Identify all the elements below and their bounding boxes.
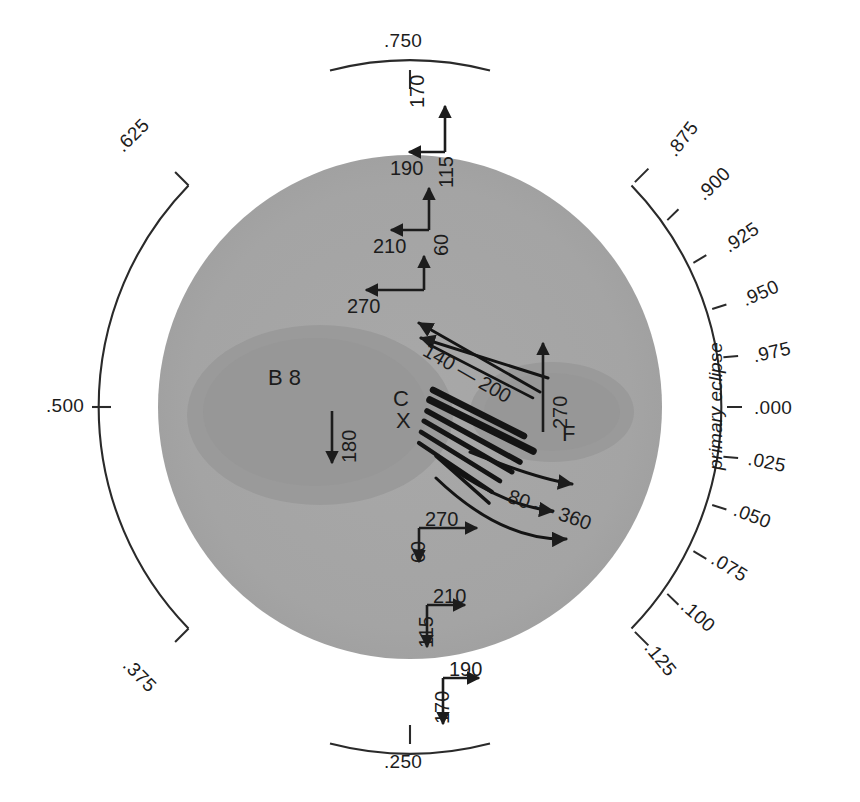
vector-top-2-vertical-label: 115 [436, 156, 456, 188]
vector-bottom-2-vertical-label: 115 [416, 616, 436, 648]
vector-bottom-1-horizontal-label: 270 [425, 509, 458, 529]
vector-top-1-horizontal-label: 190 [390, 158, 423, 178]
vector-bottom-3-horizontal-label: 190 [449, 659, 482, 679]
feature-label-c: C [393, 388, 409, 410]
vector-top-3 [366, 256, 424, 290]
velocity-vectors-layer [0, 0, 860, 802]
vector-top-1 [409, 106, 445, 152]
vector-bottom-2-horizontal-label: 210 [433, 586, 466, 606]
vector-bottom-3-vertical-label: 170 [432, 691, 452, 724]
scale-label-500: .500 [46, 396, 84, 415]
feature-label-b8: B 8 [268, 367, 301, 389]
scale-label-750: .750 [384, 31, 422, 50]
scale-label-250: .250 [384, 752, 422, 771]
vector-top-1-vertical-label: 170 [407, 75, 427, 108]
figure-canvas: .750 .250 .500 .625 .375 .875 .900 .925 … [0, 0, 860, 802]
vector-top-2-horizontal-label: 210 [373, 236, 406, 256]
vector-180-label: 180 [339, 430, 359, 463]
vector-top-3-horizontal-label: 270 [347, 296, 380, 316]
primary-eclipse-annotation: primary eclipse [706, 342, 725, 470]
vector-bottom-1-vertical-label: 60 [408, 541, 428, 563]
vector-270-f-label: 270 [550, 396, 570, 429]
feature-label-x: X [396, 410, 411, 432]
scale-label-000: .000 [754, 398, 792, 417]
vector-top-3-vertical-label: 60 [431, 234, 451, 256]
vector-top-2 [391, 188, 429, 230]
